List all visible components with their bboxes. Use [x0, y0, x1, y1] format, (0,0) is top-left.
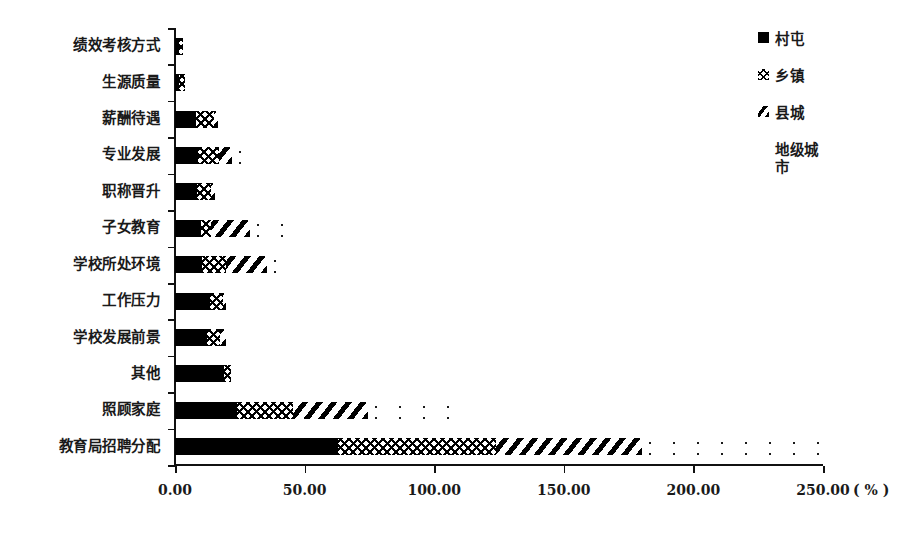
legend-label: 乡镇: [775, 67, 804, 84]
y-tick: [168, 174, 175, 176]
bar-segment-村屯: [175, 365, 224, 382]
category-label: 绩效考核方式: [73, 38, 160, 53]
category-label: 学校所处环境: [73, 257, 160, 272]
bar-segment-县城: [226, 256, 267, 273]
bar-segment-村屯: [175, 183, 197, 200]
bar-segment-县城: [496, 438, 641, 455]
bar-segment-村屯: [175, 329, 207, 346]
bar-segment-县城: [211, 220, 250, 237]
bar-segment-地级城市: [226, 329, 232, 346]
y-tick: [168, 247, 175, 249]
bar-segment-村屯: [175, 111, 196, 128]
y-tick: [168, 210, 175, 212]
category-axis-labels: 绩效考核方式生源质量薪酬待遇专业发展职称晋升子女教育学校所处环境工作压力学校发展…: [0, 25, 168, 465]
x-tick-label: 150.00: [537, 482, 591, 498]
y-tick: [168, 319, 175, 321]
bar-segment-县城: [219, 147, 232, 164]
y-tick: [168, 137, 175, 139]
legend-item[interactable]: 村屯: [758, 30, 898, 67]
category-label: 其他: [131, 366, 160, 381]
bar-segment-乡镇: [237, 402, 293, 419]
category-label: 工作压力: [102, 293, 160, 308]
y-tick: [168, 101, 175, 103]
legend-swatch-icon: [758, 143, 769, 154]
legend-label: 地级城 市: [775, 141, 819, 175]
x-tick: [434, 466, 436, 473]
category-label: 子女教育: [102, 220, 160, 235]
bar-segment-县城: [293, 402, 368, 419]
y-tick: [168, 356, 175, 358]
x-tick-label: 50.00: [283, 482, 327, 498]
legend-swatch-icon: [758, 32, 769, 43]
bar-segment-乡镇: [179, 74, 185, 91]
x-axis-unit-label: ( % ): [853, 482, 889, 498]
category-label: 教育局招聘分配: [59, 439, 161, 454]
x-tick: [564, 466, 566, 473]
x-tick-label: 200.00: [667, 482, 721, 498]
x-tick-label: 0.00: [158, 482, 192, 498]
bar-segment-村屯: [175, 147, 198, 164]
y-tick: [168, 465, 175, 467]
y-tick: [168, 283, 175, 285]
bar-segment-村屯: [175, 256, 202, 273]
bar-segment-乡镇: [210, 293, 223, 310]
x-tick-label: 250.00: [796, 482, 850, 498]
bar-segment-村屯: [175, 293, 210, 310]
bar-segment-村屯: [175, 402, 237, 419]
bar-segment-县城: [211, 183, 215, 200]
y-tick: [168, 429, 175, 431]
bar-segment-地级城市: [368, 402, 450, 419]
bar-segment-乡镇: [179, 38, 183, 55]
bar-segment-地级城市: [642, 438, 823, 455]
x-tick: [175, 466, 177, 473]
bar-segment-村屯: [175, 220, 201, 237]
category-label: 学校发展前景: [73, 330, 160, 345]
stacked-bar-chart: 绩效考核方式生源质量薪酬待遇专业发展职称晋升子女教育学校所处环境工作压力学校发展…: [0, 0, 903, 542]
bar-segment-县城: [214, 111, 218, 128]
y-tick: [168, 28, 175, 30]
category-label: 照顾家庭: [102, 402, 160, 417]
legend-item[interactable]: 乡镇: [758, 67, 898, 104]
x-axis-line: [174, 464, 823, 466]
x-tick: [693, 466, 695, 473]
plot-area: 0.0050.00100.00150.00200.00250.00( % ): [175, 28, 823, 465]
bar-segment-乡镇: [201, 220, 211, 237]
bar-segment-乡镇: [338, 438, 496, 455]
y-tick: [168, 64, 175, 66]
bar-segment-村屯: [175, 438, 338, 455]
x-tick-label: 100.00: [407, 482, 461, 498]
category-label: 专业发展: [102, 147, 160, 162]
bar-segment-县城: [223, 293, 226, 310]
bar-segment-地级城市: [267, 256, 290, 273]
chart-legend: 村屯乡镇县城地级城 市: [758, 30, 898, 178]
x-tick: [823, 466, 825, 473]
legend-item[interactable]: 地级城 市: [758, 141, 898, 178]
bar-segment-地级城市: [232, 147, 250, 164]
bar-segment-地级城市: [250, 220, 304, 237]
legend-item[interactable]: 县城: [758, 104, 898, 141]
bar-segment-乡镇: [202, 256, 225, 273]
bar-segment-乡镇: [196, 111, 214, 128]
x-tick: [305, 466, 307, 473]
category-label: 职称晋升: [102, 184, 160, 199]
y-tick: [168, 392, 175, 394]
category-label: 生源质量: [102, 75, 160, 90]
bar-segment-乡镇: [224, 365, 230, 382]
category-label: 薪酬待遇: [102, 111, 160, 126]
legend-swatch-icon: [758, 106, 769, 117]
legend-label: 县城: [775, 104, 804, 121]
legend-label: 村屯: [775, 30, 804, 47]
legend-swatch-icon: [758, 69, 769, 80]
bar-segment-乡镇: [207, 329, 220, 346]
bar-segment-乡镇: [197, 183, 211, 200]
bar-segment-乡镇: [198, 147, 219, 164]
